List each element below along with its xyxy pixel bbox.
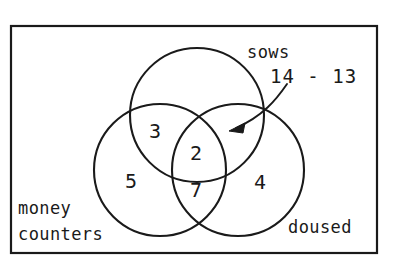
region-count-money-doused: 7 — [190, 180, 202, 200]
annotation-text: 14 - 13 — [270, 67, 357, 86]
region-count-all-three: 2 — [190, 143, 202, 163]
annotation-arrow-line — [236, 84, 287, 128]
region-count-money-only: 5 — [125, 171, 137, 191]
set-label-money-counters-line1: money — [18, 200, 71, 217]
set-label-money-counters-line2: counters — [18, 226, 103, 243]
annotation-arrow-head — [229, 123, 245, 133]
set-label-sows: sows — [247, 44, 290, 61]
region-count-doused-only: 4 — [254, 172, 266, 192]
region-count-sows-money: 3 — [149, 121, 161, 141]
set-circle-doused — [172, 104, 304, 236]
set-label-doused: doused — [288, 219, 352, 236]
venn-diagram-figure: 3 2 5 7 4 sows money counters doused 14 … — [0, 0, 397, 271]
